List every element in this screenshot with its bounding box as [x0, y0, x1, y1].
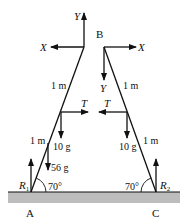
left-x-label: X [39, 41, 48, 53]
left-weight-label: 10 g [53, 141, 71, 152]
left-angle-arc [36, 178, 46, 192]
left-lower-length: 1 m [30, 135, 46, 146]
right-angle-label: 70° [125, 181, 139, 192]
a-frame-force-diagram: Y X B X Y 1 m 1 m 1 m 1 m T T 10 g 10 g … [0, 0, 187, 222]
left-angle-label: 70° [48, 181, 62, 192]
right-x-label: X [137, 41, 146, 53]
right-rod [104, 47, 156, 192]
point-c-label: C [152, 207, 159, 219]
right-upper-length: 1 m [123, 80, 139, 91]
right-y-label: Y [100, 82, 108, 94]
right-weight-label: 10 g [119, 141, 137, 152]
left-upper-length: 1 m [51, 80, 67, 91]
point-b-label: B [96, 28, 103, 40]
load-label: 56 g [51, 162, 69, 173]
point-a-label: A [26, 207, 34, 219]
right-tension-label: T [104, 97, 111, 109]
reaction-r1-label: R1 [18, 179, 30, 193]
left-tension-label: T [81, 97, 88, 109]
reaction-r2-label: R2 [159, 179, 171, 193]
right-angle-arc [141, 178, 151, 192]
right-lower-length: 1 m [143, 135, 159, 146]
ground [8, 192, 180, 203]
left-y-label: Y [74, 10, 82, 22]
